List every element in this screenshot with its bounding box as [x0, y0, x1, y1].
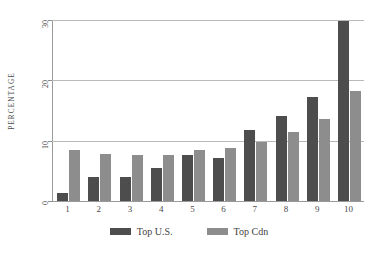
y-axis-tick: [48, 80, 52, 81]
bar: [151, 168, 162, 201]
x-axis-tick-label: 6: [211, 204, 237, 214]
y-axis-tick-label: 10: [42, 141, 50, 149]
bar: [244, 130, 255, 201]
legend-swatch-icon: [207, 228, 228, 235]
x-axis-tick-label: 4: [148, 204, 174, 214]
bar: [120, 177, 131, 201]
bar: [307, 97, 318, 201]
y-axis-title-label: PERCENTAGE: [8, 72, 16, 130]
x-axis-line: [52, 201, 364, 202]
bar-group: [338, 20, 361, 201]
bar: [276, 116, 287, 201]
plot-area: [52, 20, 364, 202]
bar: [88, 177, 99, 201]
bar: [132, 155, 143, 201]
x-axis-tick-label: 10: [335, 204, 361, 214]
bar: [350, 91, 361, 201]
legend-item[interactable]: Top U.S.: [110, 226, 173, 237]
x-axis-tick-label: 5: [179, 204, 205, 214]
x-axis-tick-label: 7: [242, 204, 268, 214]
y-axis-line: [52, 20, 53, 202]
legend-swatch-icon: [110, 228, 131, 235]
bar: [194, 150, 205, 201]
bar: [225, 148, 236, 201]
bar-group: [88, 20, 111, 201]
bar: [319, 119, 330, 201]
y-axis-tick: [48, 201, 52, 202]
bar-group: [120, 20, 143, 201]
bar-group: [57, 20, 80, 201]
bar-chart-figure: PERCENTAGE 0102030 12345678910 Top U.S.T…: [0, 0, 378, 253]
y-axis-tick: [48, 20, 52, 21]
bar-group: [244, 20, 267, 201]
bar: [182, 155, 193, 201]
legend-item-label: Top U.S.: [137, 226, 173, 237]
x-axis-tick-labels: 12345678910: [52, 204, 364, 218]
bar-group: [151, 20, 174, 201]
y-axis-tick-label: 30: [42, 20, 50, 28]
x-axis-tick-label: 3: [117, 204, 143, 214]
y-axis-tick-labels: 0102030: [28, 20, 46, 202]
x-axis-tick-label: 8: [273, 204, 299, 214]
chart-legend: Top U.S.Top Cdn: [0, 226, 378, 237]
bar: [213, 158, 224, 201]
x-axis-tick-label: 2: [86, 204, 112, 214]
bar-group: [276, 20, 299, 201]
bar-group: [182, 20, 205, 201]
bar-group: [213, 20, 236, 201]
y-axis-tick: [48, 141, 52, 142]
bar: [338, 21, 349, 201]
x-axis-tick-label: 9: [304, 204, 330, 214]
y-axis-tick-label: 20: [42, 80, 50, 88]
legend-item-label: Top Cdn: [234, 226, 269, 237]
bar: [256, 142, 267, 201]
bar-group: [307, 20, 330, 201]
bar: [57, 193, 68, 201]
y-axis-title: PERCENTAGE: [2, 0, 22, 202]
bar: [163, 155, 174, 201]
bar: [69, 150, 80, 201]
bar: [288, 132, 299, 201]
x-axis-tick-label: 1: [55, 204, 81, 214]
bar: [100, 154, 111, 201]
legend-item[interactable]: Top Cdn: [207, 226, 269, 237]
